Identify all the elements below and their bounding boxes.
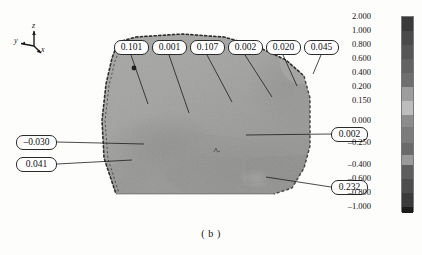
colorbar-band-12 [402, 179, 413, 193]
coordinate-triad: z y x [14, 22, 60, 56]
figure-panel-b: z y x [0, 0, 422, 255]
colorbar-band-6 [402, 101, 413, 115]
colorbar-band-10 [402, 155, 413, 165]
colorbar-band-7 [402, 115, 413, 127]
colorbar-gradient [401, 16, 414, 212]
callout-left_callouts-0[interactable]: –0.030 [16, 135, 57, 150]
colorbar-band-5 [402, 87, 413, 101]
colorbar-tick-0: 2.000 [352, 12, 371, 21]
colorbar-legend: 2.0001.0000.8000.6000.4000.2000.1500.000… [357, 16, 417, 214]
colorbar-tick-3: 0.600 [352, 54, 371, 63]
colorbar-tick-5: 0.200 [352, 82, 371, 91]
colorbar-band-14 [402, 207, 413, 213]
colorbar-tick-2: 0.800 [352, 40, 371, 49]
axis-label-y: y [14, 37, 18, 45]
speck-marker [132, 66, 137, 71]
callout-top_callouts-2[interactable]: 0.107 [190, 40, 225, 55]
axis-label-x: x [41, 46, 45, 54]
colorbar-band-3 [402, 59, 413, 73]
callout-left_callouts-1[interactable]: 0.041 [16, 157, 57, 172]
triad-glyph [14, 22, 60, 56]
colorbar-tick-7: 0.000 [352, 116, 371, 125]
colorbar-tick-9: –0.400 [348, 160, 371, 169]
callout-top_callouts-3[interactable]: 0.002 [228, 40, 263, 55]
colorbar-band-4 [402, 73, 413, 87]
colorbar-band-11 [402, 165, 413, 179]
colorbar-band-0 [402, 17, 413, 31]
colorbar-tick-10: –0.600 [348, 174, 371, 183]
callout-top_callouts-1[interactable]: 0.001 [152, 40, 187, 55]
colorbar-tick-12: –1.000 [348, 202, 371, 211]
colorbar-tick-6: 0.150 [352, 96, 371, 105]
colorbar-band-13 [402, 193, 413, 207]
colorbar-tick-4: 0.400 [352, 68, 371, 77]
figure-caption: ( b ) [0, 228, 422, 239]
colorbar-band-9 [402, 143, 413, 155]
colorbar-band-1 [402, 31, 413, 45]
colorbar-tick-11: –0.800 [348, 188, 371, 197]
axis-label-z: z [32, 22, 35, 30]
colorbar-band-2 [402, 45, 413, 59]
colorbar-tick-8: –0.250 [348, 138, 371, 147]
callout-top_callouts-5[interactable]: 0.045 [304, 40, 339, 55]
colorbar-band-8 [402, 127, 413, 143]
callout-top_callouts-4[interactable]: 0.020 [266, 40, 301, 55]
colorbar-tick-1: 1.000 [352, 26, 371, 35]
callout-top_callouts-0[interactable]: 0.101 [114, 40, 149, 55]
